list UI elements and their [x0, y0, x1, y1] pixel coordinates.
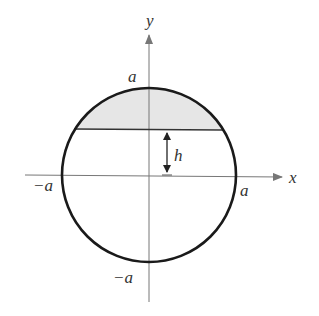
left-label: −a: [33, 176, 53, 195]
x-axis-label: x: [288, 168, 297, 187]
x-axis: [25, 175, 282, 177]
height-label: h: [174, 146, 183, 165]
bottom-label: −a: [113, 268, 133, 287]
chord-line: [74, 129, 223, 130]
top-label: a: [128, 67, 137, 86]
right-label: a: [240, 181, 249, 200]
circle-segment-diagram: y x a a −a −a h: [0, 0, 319, 316]
y-axis-label: y: [144, 11, 154, 30]
